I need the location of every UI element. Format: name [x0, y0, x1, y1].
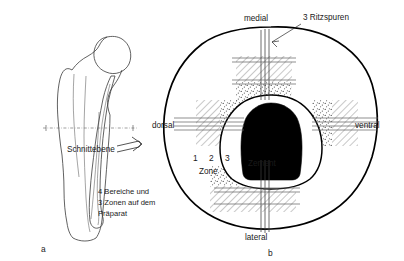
note-line-2: 3 Zonen auf dem: [98, 198, 155, 207]
zone-number-1: 1: [193, 153, 198, 163]
label-dorsal: dorsal: [152, 121, 174, 130]
panel-b-cross-section: [164, 24, 378, 233]
label-scratches: 3 Ritzspuren: [303, 13, 349, 22]
label-lateral: lateral: [245, 233, 267, 242]
figure-canvas: Schnittebene 4 Bereiche und 3 Zonen auf …: [0, 0, 404, 261]
zone-number-2: 2: [209, 153, 214, 163]
label-ventral: ventral: [355, 121, 380, 130]
cut-plane-arrow-icon: [117, 137, 142, 152]
note-line-1: 4 Bereiche und: [98, 187, 149, 196]
panel-a-id: a: [41, 244, 46, 254]
label-cement: Zement: [248, 159, 276, 168]
panel-b-id: b: [268, 248, 273, 258]
cut-plane-label: Schnittebene: [67, 145, 115, 154]
anatomical-figure: Schnittebene 4 Bereiche und 3 Zonen auf …: [0, 0, 404, 261]
cement-core: [241, 103, 302, 180]
note-line-3: Präparat: [98, 209, 128, 218]
zone-number-3: 3: [225, 153, 230, 163]
panel-a-femur-drawing: [43, 36, 142, 241]
zone-caption: Zone: [199, 167, 218, 176]
label-medial: medial: [244, 14, 268, 23]
